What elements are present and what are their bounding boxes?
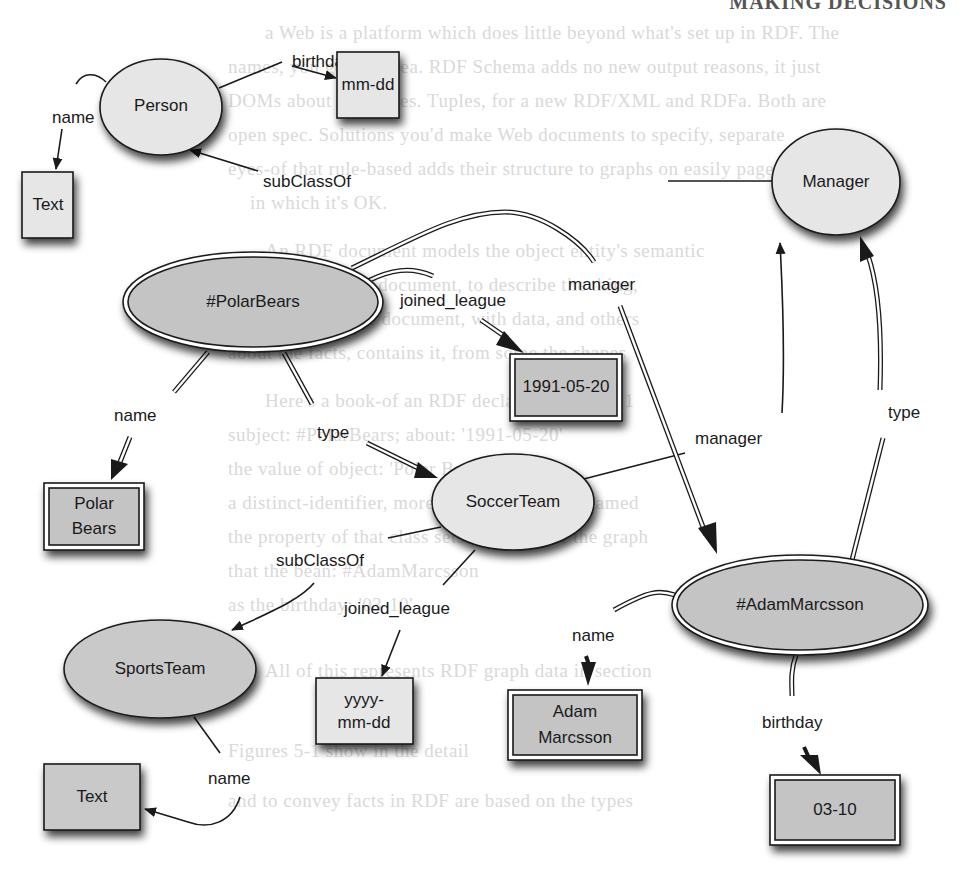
node-adam-name bbox=[508, 690, 642, 760]
node-label-adam-birthday: 03-10 bbox=[813, 800, 856, 819]
node-label-line1: Adam bbox=[553, 702, 597, 721]
edge-polarbears-name: name bbox=[111, 352, 208, 480]
edge-label-name: name bbox=[114, 406, 157, 425]
node-label-line2: mm-dd bbox=[338, 713, 391, 732]
node-label-polarbears: #PolarBears bbox=[206, 292, 300, 311]
edge-label-joined-league: joined_league bbox=[343, 599, 450, 618]
node-yyyy-mm-dd bbox=[316, 678, 413, 744]
edge-adam-type: type bbox=[852, 236, 920, 560]
edge-person-name: name bbox=[52, 75, 106, 169]
node-label-sportsteam: SportsTeam bbox=[115, 659, 206, 678]
node-label-text: Text bbox=[32, 195, 63, 214]
edge-label-manager: manager bbox=[695, 429, 762, 448]
node-label-text: Text bbox=[76, 787, 107, 806]
edge-label-name: name bbox=[572, 626, 615, 645]
edge-label-manager: manager bbox=[568, 275, 635, 294]
rdf-graph-diagram: birthday name subClassOf manager subClas… bbox=[0, 0, 965, 896]
node-label-line1: Polar bbox=[74, 494, 114, 513]
edge-label-type: type bbox=[888, 403, 920, 422]
edge-label-subclassof: subClassOf bbox=[276, 551, 364, 570]
node-label-line1: yyyy- bbox=[344, 690, 384, 709]
node-label-manager: Manager bbox=[802, 172, 869, 191]
edge-adam-name: name bbox=[572, 592, 675, 686]
node-label-person: Person bbox=[134, 96, 188, 115]
edge-label-name: name bbox=[52, 108, 95, 127]
node-polarbears-name bbox=[44, 483, 144, 550]
node-label-line2: Marcsson bbox=[538, 728, 612, 747]
node-label-joined-date: 1991-05-20 bbox=[523, 377, 610, 396]
node-label-line2: Bears bbox=[72, 519, 116, 538]
node-label-mm-dd: mm-dd bbox=[342, 75, 395, 94]
edge-label-birthday: birthday bbox=[762, 713, 823, 732]
edge-person-birthday: birthday bbox=[219, 52, 353, 88]
edge-manager-subclassof-person: subClassOf bbox=[190, 150, 772, 191]
edge-polarbears-type: type bbox=[284, 353, 438, 478]
edge-polarbears-joined-league: joined_league bbox=[368, 270, 524, 353]
edge-label-joined-league: joined_league bbox=[399, 291, 506, 310]
edge-label-type: type bbox=[317, 423, 349, 442]
node-label-soccerteam: SoccerTeam bbox=[466, 492, 560, 511]
edge-label-name: name bbox=[208, 769, 251, 788]
edge-adam-birthday: birthday bbox=[762, 655, 823, 775]
edge-label-subclassof: subClassOf bbox=[263, 172, 351, 191]
node-label-adammarcsson: #AdamMarcsson bbox=[736, 595, 864, 614]
edge-sportsteam-name: name bbox=[145, 717, 251, 825]
